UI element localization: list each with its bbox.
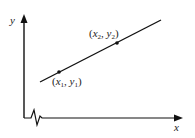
- point-1-label: (x1, y1): [52, 75, 82, 89]
- y-axis-arrowhead: [21, 14, 28, 23]
- point-2-label: (x2, y2): [89, 27, 119, 41]
- y-axis-label: y: [9, 14, 15, 26]
- x-axis: [24, 110, 175, 125]
- point-1-marker: [57, 70, 61, 74]
- point-2-marker: [115, 41, 119, 45]
- x-axis-label: x: [173, 121, 179, 133]
- paren-close: ): [78, 75, 82, 88]
- line-diagram: y x (x1, y1) (x2, y2): [0, 0, 195, 138]
- paren-close: ): [115, 27, 119, 40]
